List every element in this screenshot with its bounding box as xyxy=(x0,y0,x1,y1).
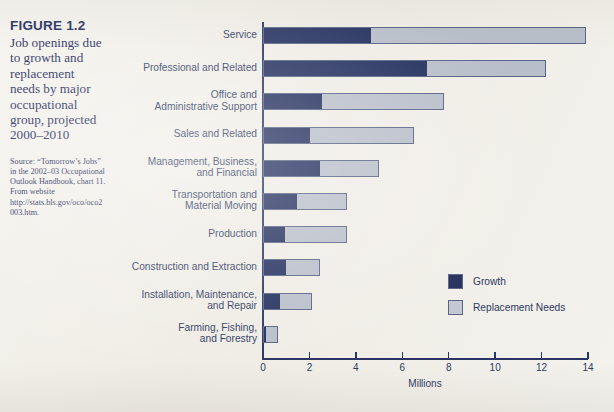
bar-stacked xyxy=(263,293,312,310)
category-label-line: and Forestry xyxy=(27,333,257,345)
bar-segment-growth xyxy=(264,61,427,76)
bar-stacked xyxy=(263,226,347,243)
x-axis-tick xyxy=(355,352,357,359)
category-label: Management, Business,and Financial xyxy=(27,156,257,179)
bar-segment-growth xyxy=(264,260,286,275)
x-axis-tick-label: 12 xyxy=(527,362,557,373)
category-label: Installation, Maintenance,and Repair xyxy=(27,289,257,312)
category-label: Transportation andMaterial Moving xyxy=(27,189,257,212)
legend-swatch xyxy=(448,274,463,289)
category-label-line: Material Moving xyxy=(27,200,257,212)
bar-segment-replacement xyxy=(427,61,546,76)
bar-stacked xyxy=(263,326,278,343)
category-label-line: Production xyxy=(27,228,257,240)
bar-stacked xyxy=(263,193,347,210)
x-axis-tick-label: 2 xyxy=(294,362,324,373)
legend-swatch xyxy=(448,300,463,315)
x-axis-tick xyxy=(262,352,264,359)
chart-plot-area: 02468101214 ServiceProfessional and Rela… xyxy=(0,0,614,412)
bar-segment-replacement xyxy=(297,194,346,209)
category-label-line: Construction and Extraction xyxy=(27,261,257,273)
bar-stacked xyxy=(263,27,586,44)
category-label: Office andAdministrative Support xyxy=(27,89,257,112)
figure-container: FIGURE 1.2 Job openings due to growth an… xyxy=(0,0,614,412)
bar-segment-replacement xyxy=(310,128,412,143)
category-label-line: Transportation and xyxy=(27,189,257,201)
x-axis-tick-label: 4 xyxy=(341,362,371,373)
bar-segment-growth xyxy=(264,94,322,109)
bar-segment-replacement xyxy=(320,161,378,176)
bar-segment-growth xyxy=(264,128,310,143)
category-label: Farming, Fishing,and Forestry xyxy=(27,322,257,345)
category-label: Sales and Related xyxy=(27,128,257,140)
x-axis-tick xyxy=(309,352,311,359)
legend-label: Replacement Needs xyxy=(473,302,565,313)
x-axis-tick xyxy=(448,352,450,359)
x-axis-tick-label: 8 xyxy=(434,362,464,373)
category-label-line: Administrative Support xyxy=(27,101,257,113)
bar-segment-replacement xyxy=(286,260,319,275)
bar-segment-growth xyxy=(264,28,371,43)
bar-segment-replacement xyxy=(322,94,443,109)
category-label-line: Service xyxy=(27,29,257,41)
x-axis-tick-label: 6 xyxy=(387,362,417,373)
legend-item: Replacement Needs xyxy=(448,297,565,317)
category-label-line: and Financial xyxy=(27,167,257,179)
category-label-line: Installation, Maintenance, xyxy=(27,289,257,301)
bar-stacked xyxy=(263,259,320,276)
bar-stacked xyxy=(263,93,444,110)
bar-segment-growth xyxy=(264,161,320,176)
bar-stacked xyxy=(263,60,546,77)
legend-item: Growth xyxy=(448,271,565,291)
x-axis-tick-label: 10 xyxy=(480,362,510,373)
bar-segment-growth xyxy=(264,294,280,309)
category-label-line: Sales and Related xyxy=(27,128,257,140)
bar-segment-growth xyxy=(264,194,297,209)
category-label-line: Professional and Related xyxy=(27,62,257,74)
bar-segment-replacement xyxy=(266,327,277,342)
bar-segment-replacement xyxy=(285,227,346,242)
x-axis-tick-label: 14 xyxy=(573,362,603,373)
category-label: Professional and Related xyxy=(27,62,257,74)
legend-label: Growth xyxy=(473,276,506,287)
x-axis-tick xyxy=(541,352,543,359)
category-label: Service xyxy=(27,29,257,41)
category-label: Production xyxy=(27,228,257,240)
x-axis-title: Millions xyxy=(262,378,588,389)
x-axis-line xyxy=(262,358,588,360)
category-label-line: Management, Business, xyxy=(27,156,257,168)
x-axis-tick-label: 0 xyxy=(248,362,278,373)
bar-stacked xyxy=(263,127,414,144)
chart-legend: GrowthReplacement Needs xyxy=(448,271,565,323)
category-label: Construction and Extraction xyxy=(27,261,257,273)
bar-stacked xyxy=(263,160,379,177)
x-axis-tick xyxy=(494,352,496,359)
bar-segment-replacement xyxy=(371,28,585,43)
category-label-line: and Repair xyxy=(27,300,257,312)
bar-segment-replacement xyxy=(280,294,311,309)
category-label-line: Farming, Fishing, xyxy=(27,322,257,334)
x-axis-tick xyxy=(587,352,589,359)
bar-segment-growth xyxy=(264,227,285,242)
category-label-line: Office and xyxy=(27,89,257,101)
x-axis-tick xyxy=(402,352,404,359)
